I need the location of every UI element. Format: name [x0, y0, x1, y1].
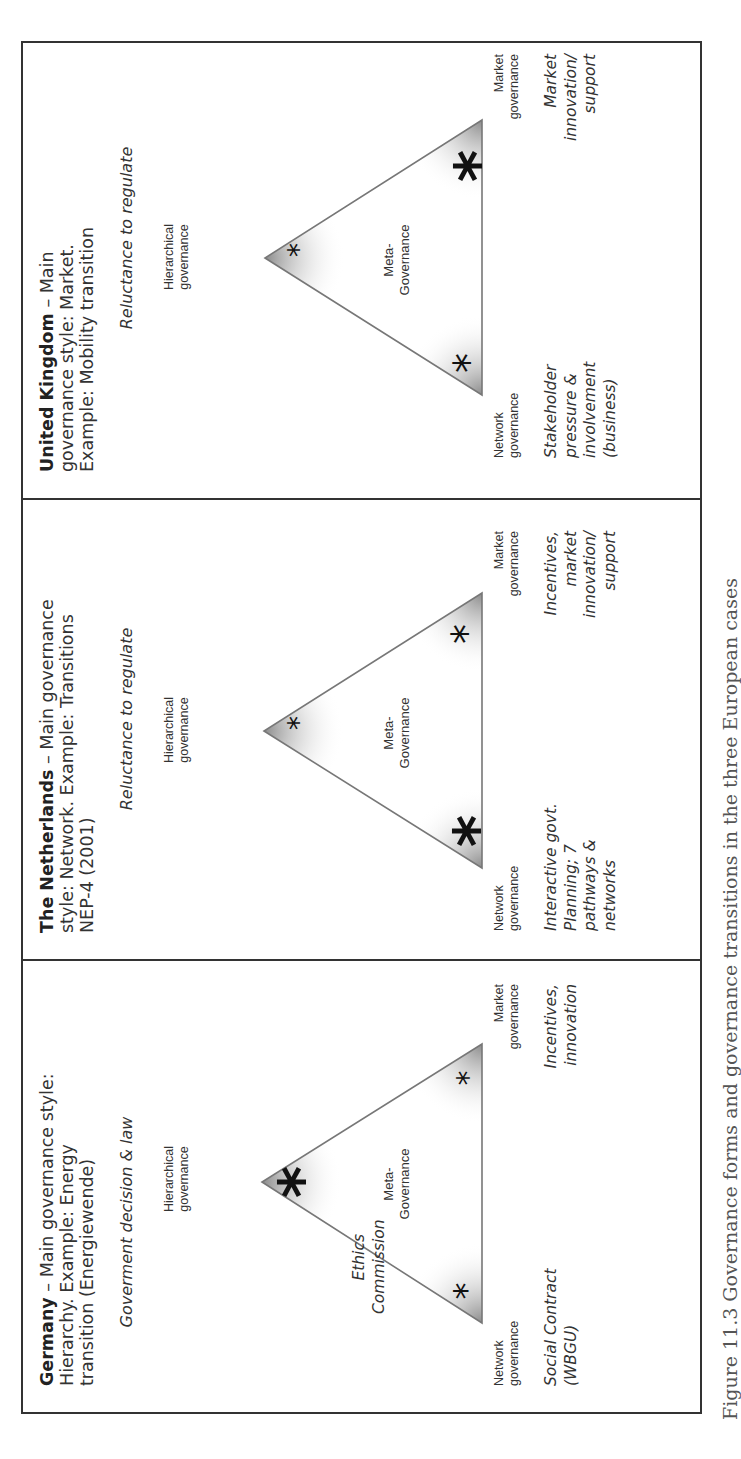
label-line: Meta-: [381, 683, 397, 783]
note-line: Ethics: [350, 1234, 370, 1314]
desc-line: innovation: [562, 984, 582, 1112]
network-label: Network governance: [492, 866, 522, 931]
governance-triangle: * * *: [23, 956, 704, 1412]
desc-line: Planning; 7: [562, 803, 582, 931]
desc-line: involvement: [581, 362, 601, 458]
note-line: Commission: [370, 1234, 390, 1314]
asterisk-network-medium: *: [446, 353, 492, 373]
label-line: governance: [177, 1134, 192, 1224]
desc-line: Stakeholder: [542, 362, 562, 458]
asterisk-hierarchical-small: *: [282, 243, 315, 257]
network-description: Interactive govt. Planning; 7 pathways &…: [542, 803, 620, 931]
asterisk-hierarchical-small: *: [282, 716, 315, 730]
hierarchical-label: Hierarchical governance: [162, 685, 192, 775]
label-line: governance: [507, 531, 522, 609]
desc-line: support: [581, 54, 601, 182]
desc-line: Incentives,: [542, 984, 562, 1112]
label-line: governance: [507, 1321, 522, 1386]
desc-line: networks: [601, 803, 621, 931]
panel-netherlands: The Netherlands – Main governance style:…: [21, 498, 702, 961]
market-description: Incentives, market innovation/ support: [542, 531, 620, 659]
network-description: Stakeholder pressure & involvement (busi…: [542, 362, 620, 458]
hierarchical-label: Hierarchical governance: [162, 212, 192, 302]
market-label: Market governance: [492, 984, 522, 1062]
panel-germany: Germany – Main governance style: Hierarc…: [21, 958, 702, 1414]
desc-line: Interactive govt.: [542, 803, 562, 931]
desc-line: innovation/: [581, 531, 601, 659]
desc-line: innovation/: [562, 54, 582, 182]
market-label: Market governance: [492, 531, 522, 609]
label-line: Market: [492, 54, 507, 132]
meta-governance-label: Meta- Governance: [381, 210, 413, 310]
label-line: Meta-: [381, 210, 397, 310]
meta-governance-label: Meta- Governance: [381, 683, 413, 783]
desc-line: Market: [542, 54, 562, 182]
desc-line: market: [562, 531, 582, 659]
market-label: Market governance: [492, 54, 522, 132]
label-line: Market: [492, 531, 507, 609]
asterisk-market-small: *: [450, 1071, 485, 1086]
label-line: Network: [492, 393, 507, 458]
label-line: Market: [492, 984, 507, 1062]
label-line: Network: [492, 866, 507, 931]
label-line: governance: [177, 212, 192, 302]
ethics-commission-note: Ethics Commission: [350, 1234, 389, 1314]
asterisk-market-large: *: [441, 150, 514, 182]
label-line: governance: [507, 984, 522, 1062]
label-line: Hierarchical: [162, 212, 177, 302]
label-line: governance: [507, 393, 522, 458]
panel-united-kingdom: United Kingdom – Main governance style: …: [21, 41, 702, 500]
label-line: Hierarchical: [162, 685, 177, 775]
asterisk-market-medium: *: [444, 624, 490, 644]
figure-caption: Figure 11.3 Governance forms and governa…: [719, 578, 741, 1420]
network-label: Network governance: [492, 1321, 522, 1386]
desc-line: (business): [601, 362, 621, 458]
asterisk-network-small: *: [446, 1283, 486, 1300]
asterisk-hierarchical-large: *: [265, 1166, 338, 1198]
desc-line: (WBGU): [562, 1268, 582, 1386]
label-line: Governance: [397, 1134, 413, 1234]
desc-line: pressure &: [562, 362, 582, 458]
desc-line: Incentives,: [542, 531, 562, 659]
market-description: Market innovation/ support: [542, 54, 601, 182]
label-line: governance: [507, 866, 522, 931]
label-line: Network: [492, 1321, 507, 1386]
desc-line: Social Contract: [542, 1268, 562, 1386]
asterisk-network-large: *: [440, 815, 513, 847]
market-description: Incentives, innovation: [542, 984, 581, 1112]
desc-line: pathways &: [581, 803, 601, 931]
network-description: Social Contract (WBGU): [542, 1268, 581, 1386]
label-line: Hierarchical: [162, 1134, 177, 1224]
label-line: Governance: [397, 210, 413, 310]
label-line: governance: [507, 54, 522, 132]
desc-line: support: [601, 531, 621, 659]
hierarchical-label: Hierarchical governance: [162, 1134, 192, 1224]
label-line: governance: [177, 685, 192, 775]
network-label: Network governance: [492, 393, 522, 458]
label-line: Governance: [397, 683, 413, 783]
governance-figure: Germany – Main governance style: Hierarc…: [21, 41, 702, 1414]
